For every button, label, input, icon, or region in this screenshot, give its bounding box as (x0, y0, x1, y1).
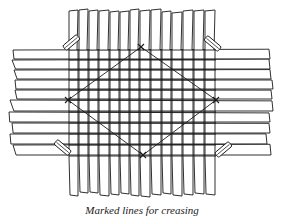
horizontal-strip (12, 59, 270, 69)
figure-caption: Marked lines for creasing (0, 204, 284, 216)
horizontal-strip (14, 70, 271, 79)
horizontal-strips (9, 49, 273, 155)
horizontal-strip (13, 49, 270, 59)
horizontal-strip (10, 100, 273, 111)
horizontal-strip (15, 80, 273, 89)
horizontal-strip (9, 112, 270, 122)
horizontal-strip (15, 90, 272, 99)
horizontal-strip (12, 123, 270, 133)
weaving-diagram (0, 0, 284, 220)
